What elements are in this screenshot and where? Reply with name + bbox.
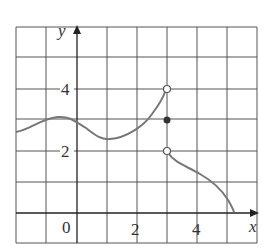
- y-tick-4: 4: [61, 80, 70, 99]
- y-axis-arrow-icon: [73, 25, 81, 34]
- curve-left-piece: [16, 92, 165, 139]
- grid: [16, 27, 257, 243]
- y-tick-2: 2: [61, 142, 70, 161]
- function-graph: y x 4 2 0 2 4: [0, 0, 270, 252]
- x-axis-arrow-icon: [250, 209, 259, 217]
- filled-point: [164, 117, 171, 124]
- x-tick-2: 2: [131, 220, 140, 239]
- open-point-top: [164, 86, 171, 93]
- origin-label: 0: [62, 218, 71, 237]
- open-point-bottom: [164, 148, 171, 155]
- curve-right-piece: [169, 154, 234, 212]
- axes: [16, 32, 254, 243]
- x-tick-4: 4: [192, 220, 201, 239]
- x-axis-label: x: [248, 217, 257, 236]
- y-axis-label: y: [56, 21, 66, 40]
